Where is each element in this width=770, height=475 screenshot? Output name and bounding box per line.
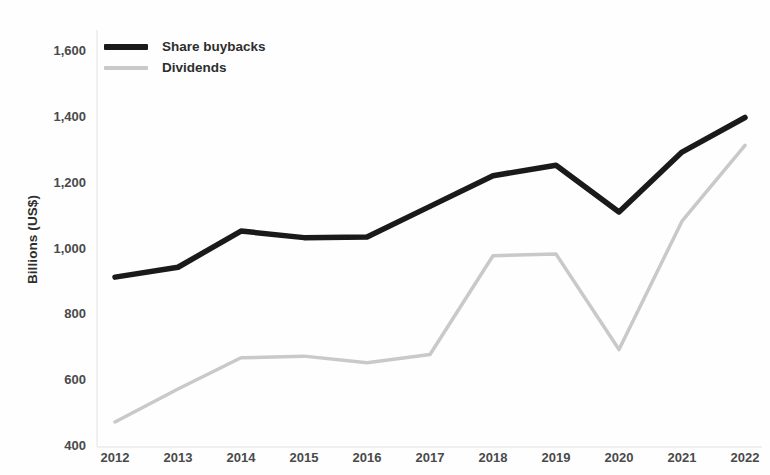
- series-layer: [115, 117, 745, 421]
- legend-item-share-buybacks: Share buybacks: [104, 36, 266, 57]
- legend-swatch-dividends: [104, 66, 148, 70]
- chart-legend: Share buybacks Dividends: [104, 36, 266, 78]
- series-line-dividends: [115, 145, 745, 422]
- axis-lines: [97, 30, 762, 447]
- legend-item-dividends: Dividends: [104, 57, 266, 78]
- legend-label-dividends: Dividends: [162, 60, 227, 75]
- series-line-share-buybacks: [115, 117, 745, 277]
- line-chart: Billions (US$) 4006008001,0001,2001,4001…: [0, 0, 770, 475]
- legend-swatch-share-buybacks: [104, 44, 148, 50]
- legend-label-share-buybacks: Share buybacks: [162, 39, 266, 54]
